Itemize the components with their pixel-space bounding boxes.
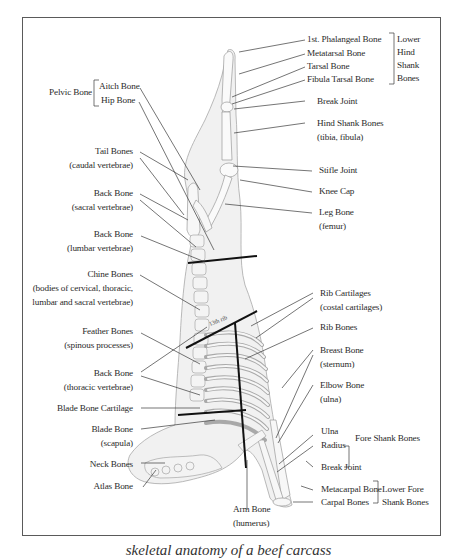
carcass-outline: [128, 49, 292, 507]
figure-caption: skeletal anatomy of a beef carcass: [0, 542, 457, 559]
label-rib-bones: Rib Bones: [320, 322, 357, 333]
label-hip-bone: Hip Bone: [101, 95, 135, 106]
label-rib-cartilages-sub: (costal cartilages): [320, 302, 382, 313]
label-aitch-bone: Aitch Bone: [99, 81, 140, 92]
label-neck-bones: Neck Bones: [90, 459, 133, 470]
label-radius: Radius: [321, 440, 346, 451]
label-stifle-joint: Stifle Joint: [319, 165, 357, 176]
label-break-joint-hind: Break Joint: [317, 96, 357, 107]
label-tarsal-bone: Tarsal Bone: [307, 61, 349, 72]
label-feather-bones: Feather Bones: [82, 326, 133, 337]
label-lower-fore-shank-1: Lower Fore: [382, 484, 424, 495]
label-fore-shank-bones: Fore Shank Bones: [355, 433, 420, 444]
label-leg-bone-sub: (femur): [319, 221, 346, 232]
label-carpal-bones: Carpal Bones: [321, 497, 369, 508]
label-back-bone-thoracic-sub: (thoracic vertebrae): [64, 382, 133, 393]
label-pelvic-bone: Pelvic Bone: [49, 87, 92, 98]
label-tail-bones: Tail Bones: [95, 146, 133, 157]
label-breast-bone-sub: (sternum): [320, 359, 354, 370]
label-blade-bone: Blade Bone: [91, 424, 133, 435]
label-hind-shank-bones-sub: (tibia, fibula): [317, 132, 363, 143]
label-arm-bone: Arm Bone: [233, 504, 270, 515]
label-back-bone-sacral-sub: (sacral vertebrae): [72, 202, 133, 213]
label-blade-bone-cartilage: Blade Bone Cartilage: [57, 403, 133, 414]
label-atlas-bone: Atlas Bone: [93, 481, 133, 492]
label-fibula-tarsal-bone: Fibula Tarsal Bone: [307, 74, 374, 85]
label-back-bone-thoracic: Back Bone: [94, 368, 133, 379]
label-back-bone-lumbar: Back Bone: [94, 229, 133, 240]
label-knee-cap: Knee Cap: [319, 186, 354, 197]
label-ulna: Ulna: [321, 426, 338, 437]
label-rib-cartilages: Rib Cartilages: [320, 288, 371, 299]
label-lower-hind-shank-2: Hind: [397, 47, 415, 58]
label-feather-bones-sub: (spinous processes): [64, 340, 133, 351]
label-lower-hind-shank-1: Lower: [397, 34, 420, 45]
label-lower-hind-shank-3: Shank: [397, 60, 419, 71]
label-chine-bones: Chine Bones: [87, 269, 133, 280]
label-breast-bone: Breast Bone: [320, 345, 364, 356]
label-lower-hind-shank-4: Bones: [397, 73, 419, 84]
label-tail-bones-sub: (caudal vertebrae): [69, 160, 133, 171]
label-elbow-bone: Elbow Bone: [320, 380, 364, 391]
label-break-joint-fore: Break Joint: [321, 462, 361, 473]
label-back-bone-sacral: Back Bone: [94, 188, 133, 199]
label-hind-shank-bones: Hind Shank Bones: [317, 118, 384, 129]
label-leg-bone: Leg Bone: [319, 207, 354, 218]
label-arm-bone-sub: (humerus): [233, 518, 269, 529]
label-metacarpal-bone: Metacarpal Bone: [321, 484, 382, 495]
label-elbow-bone-sub: (ulna): [320, 394, 341, 405]
label-chine-bones-sub1: (bodies of cervical, thoracic,: [33, 283, 133, 294]
label-back-bone-lumbar-sub: (lumbar vertebrae): [67, 243, 133, 254]
label-metatarsal-bone: Metatarsal Bone: [307, 48, 365, 59]
label-lower-fore-shank-2: Shank Bones: [382, 497, 429, 508]
label-blade-bone-sub: (scapula): [101, 438, 133, 449]
label-chine-bones-sub2: lumbar and sacral vertebrae): [32, 297, 133, 308]
label-first-phalangeal-bone: 1st. Phalangeal Bone: [307, 34, 381, 45]
